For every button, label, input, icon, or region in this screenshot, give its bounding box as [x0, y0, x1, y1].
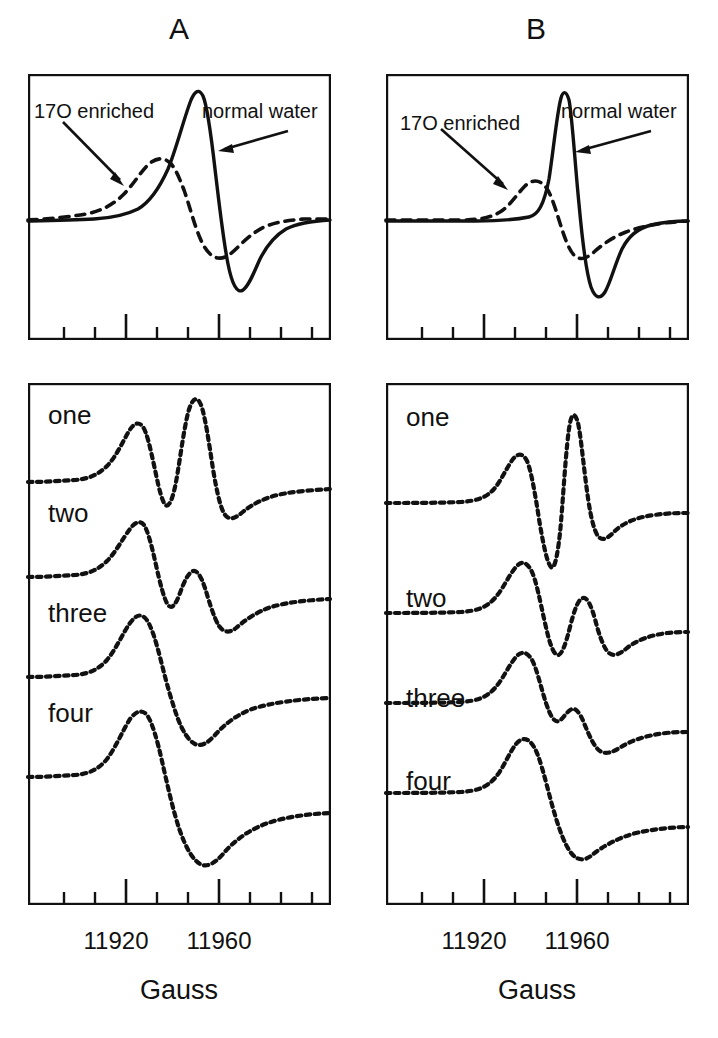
panel-b-annotation-normal-water: normal water [561, 100, 677, 123]
panel-b-trace-label-one: one [406, 402, 449, 433]
panel-a-trace-label-three: three [48, 598, 107, 629]
panel-b-bottom-plot [386, 383, 689, 905]
panel-a-tick-label-11920: 11920 [66, 927, 166, 955]
panel-a-title: A [149, 12, 209, 46]
figure-root: A B 17O enriche [0, 0, 718, 1038]
panel-b-tick-label-11960: 11960 [527, 927, 627, 955]
panel-b-annotation-17o-enriched: 17O enriched [400, 112, 520, 135]
panel-a-trace-label-four: four [48, 698, 93, 729]
panel-b-trace-label-two: two [406, 583, 446, 614]
panel-b-trace-label-four: four [406, 766, 451, 797]
panel-a-axis-label: Gauss [79, 975, 279, 1006]
panel-a-trace-label-one: one [48, 400, 91, 431]
panel-a-annotation-normal-water: normal water [202, 100, 318, 123]
panel-a-tick-label-11960: 11960 [169, 927, 269, 955]
plot-frame [387, 384, 688, 904]
panel-b-axis-label: Gauss [437, 975, 637, 1006]
panel-b-title: B [506, 12, 566, 46]
panel-b-trace-label-three: three [406, 683, 465, 714]
panel-b-tick-label-11920: 11920 [424, 927, 524, 955]
panel-a-bottom-plot [28, 383, 331, 905]
panel-a-trace-label-two: two [48, 498, 88, 529]
panel-a-annotation-17o-enriched: 17O enriched [34, 100, 154, 123]
